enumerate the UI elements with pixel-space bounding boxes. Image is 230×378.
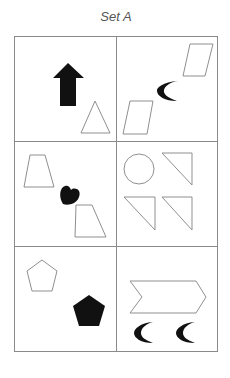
outline-parallelogram-icon [123, 101, 153, 134]
outline-right-triangle-icon [162, 153, 192, 185]
cell-r2-c2 [124, 153, 192, 230]
outline-chevron-icon [130, 281, 206, 313]
filled-crescent-icon [176, 322, 195, 343]
cell-r2-c1 [24, 155, 106, 237]
outline-trapezoid-icon [75, 205, 106, 237]
outline-right-triangle-icon [124, 197, 155, 230]
filled-crescent-icon [134, 322, 153, 343]
outline-trapezoid-icon [24, 155, 54, 187]
outline-pentagon-icon [27, 260, 57, 291]
filled-up-arrow-icon [53, 63, 84, 106]
outline-right-triangle-icon [162, 197, 192, 230]
outline-parallelogram-icon [183, 44, 213, 76]
cell-r1-c2 [123, 44, 213, 134]
cell-r3-c2 [130, 281, 206, 343]
grid-lines [15, 37, 218, 352]
outline-triangle-icon [81, 101, 110, 133]
outline-circle-icon [124, 154, 154, 184]
filled-pentagon-icon [73, 295, 105, 326]
filled-heart-icon [60, 186, 79, 205]
filled-crescent-icon [157, 81, 178, 101]
cell-r3-c1 [27, 260, 105, 326]
cell-r1-c1 [53, 63, 110, 133]
puzzle-grid [0, 0, 230, 378]
